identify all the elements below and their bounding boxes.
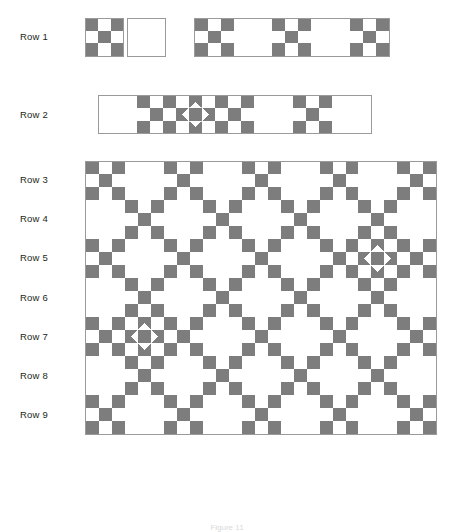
patch-square-dark bbox=[319, 96, 332, 108]
patch-square-dark bbox=[137, 121, 150, 133]
patch-square-dark bbox=[229, 278, 242, 291]
patch-square-light bbox=[86, 330, 99, 343]
patch-square-light bbox=[307, 213, 320, 226]
patch-square-dark bbox=[137, 96, 150, 108]
patch-square-light bbox=[151, 291, 164, 304]
patch-square-dark bbox=[320, 317, 333, 330]
patch-square-dark bbox=[319, 121, 332, 133]
patch-square-dark bbox=[242, 239, 255, 252]
patch-square-dark bbox=[216, 369, 229, 382]
patch-square-dark bbox=[86, 19, 98, 31]
patch-square-dark bbox=[294, 291, 307, 304]
patch-square-light bbox=[363, 19, 376, 31]
patch-square-light bbox=[281, 369, 294, 382]
patch-square-dark bbox=[190, 265, 203, 278]
plain-white-block bbox=[281, 317, 320, 356]
patch-square-dark bbox=[151, 226, 164, 239]
patch-square-light bbox=[221, 31, 234, 43]
patch-square-light bbox=[410, 162, 423, 175]
patch-square-light bbox=[281, 291, 294, 304]
row-label-row-7: Row 7 bbox=[20, 331, 48, 342]
plain-white-block bbox=[311, 19, 350, 56]
patch-square-dark bbox=[255, 252, 268, 265]
patch-square-light bbox=[272, 31, 285, 43]
patch-square-dark bbox=[423, 162, 436, 175]
star-cell-hourglass bbox=[202, 108, 215, 120]
star-cell-light bbox=[358, 239, 371, 252]
patch-square-dark bbox=[151, 278, 164, 291]
patch-square-light bbox=[307, 291, 320, 304]
plain-white-block bbox=[281, 239, 320, 278]
nine-patch-block bbox=[203, 278, 242, 317]
patch-square-light bbox=[268, 408, 281, 421]
patch-square-light bbox=[294, 382, 307, 395]
patch-square-dark bbox=[358, 226, 371, 239]
patch-square-light bbox=[242, 252, 255, 265]
patch-square-light bbox=[346, 174, 359, 187]
patch-square-dark bbox=[358, 200, 371, 213]
plain-white-block bbox=[203, 162, 242, 201]
patch-square-dark bbox=[423, 265, 436, 278]
patch-square-dark bbox=[272, 43, 285, 55]
row-label-row-1: Row 1 bbox=[20, 31, 48, 42]
patch-square-dark bbox=[423, 421, 436, 434]
patch-square-light bbox=[285, 19, 298, 31]
patch-square-light bbox=[281, 213, 294, 226]
patch-square-dark bbox=[203, 226, 216, 239]
nine-patch-block bbox=[281, 278, 320, 317]
patch-square-dark bbox=[320, 187, 333, 200]
patch-square-dark bbox=[298, 19, 311, 31]
patch-square-light bbox=[397, 330, 410, 343]
patch-square-dark bbox=[242, 265, 255, 278]
patch-square-dark bbox=[86, 421, 99, 434]
patch-square-dark bbox=[203, 382, 216, 395]
patch-square-dark bbox=[320, 343, 333, 356]
nine-patch-block bbox=[350, 19, 389, 56]
star-cell-dark bbox=[371, 252, 384, 265]
patch-square-dark bbox=[281, 226, 294, 239]
patch-square-dark bbox=[203, 356, 216, 369]
patch-square-dark bbox=[423, 187, 436, 200]
patch-square-dark bbox=[164, 317, 177, 330]
plain-white-block bbox=[99, 96, 138, 133]
patch-square-light bbox=[371, 356, 384, 369]
patch-square-dark bbox=[164, 265, 177, 278]
plain-white-block bbox=[397, 200, 436, 239]
patch-square-dark bbox=[151, 200, 164, 213]
star-block bbox=[358, 239, 397, 278]
patch-square-dark bbox=[112, 317, 125, 330]
patch-square-light bbox=[164, 408, 177, 421]
patch-square-dark bbox=[99, 252, 112, 265]
nine-patch-block bbox=[397, 239, 436, 278]
patch-square-dark bbox=[151, 304, 164, 317]
patch-square-dark bbox=[423, 239, 436, 252]
patch-square-light bbox=[410, 343, 423, 356]
patch-square-dark bbox=[86, 162, 99, 175]
patch-square-dark bbox=[358, 356, 371, 369]
patch-square-dark bbox=[151, 382, 164, 395]
patch-square-dark bbox=[86, 265, 99, 278]
star-cell-light bbox=[125, 343, 138, 356]
patch-square-light bbox=[99, 421, 112, 434]
star-cell-light bbox=[358, 265, 371, 278]
patch-square-dark bbox=[346, 421, 359, 434]
star-cell-light bbox=[176, 96, 189, 108]
patch-square-dark bbox=[255, 408, 268, 421]
patch-square-light bbox=[177, 187, 190, 200]
patch-square-dark bbox=[397, 162, 410, 175]
patch-square-light bbox=[163, 108, 176, 120]
nine-patch-block bbox=[397, 317, 436, 356]
patch-square-dark bbox=[307, 356, 320, 369]
patch-square-light bbox=[306, 121, 319, 133]
patch-square-dark bbox=[350, 19, 363, 31]
nine-patch-block bbox=[358, 200, 397, 239]
patch-square-light bbox=[203, 213, 216, 226]
nine-patch-block bbox=[272, 19, 311, 56]
quilt-diagram: Row 1Row 2Row 3Row 4Row 5Row 6Row 7Row 8… bbox=[0, 0, 454, 532]
patch-square-dark bbox=[371, 291, 384, 304]
patch-square-light bbox=[125, 213, 138, 226]
star-cell-light bbox=[202, 121, 215, 133]
nine-patch-block bbox=[164, 162, 203, 201]
patch-square-light bbox=[371, 304, 384, 317]
row2-strip bbox=[98, 95, 372, 134]
